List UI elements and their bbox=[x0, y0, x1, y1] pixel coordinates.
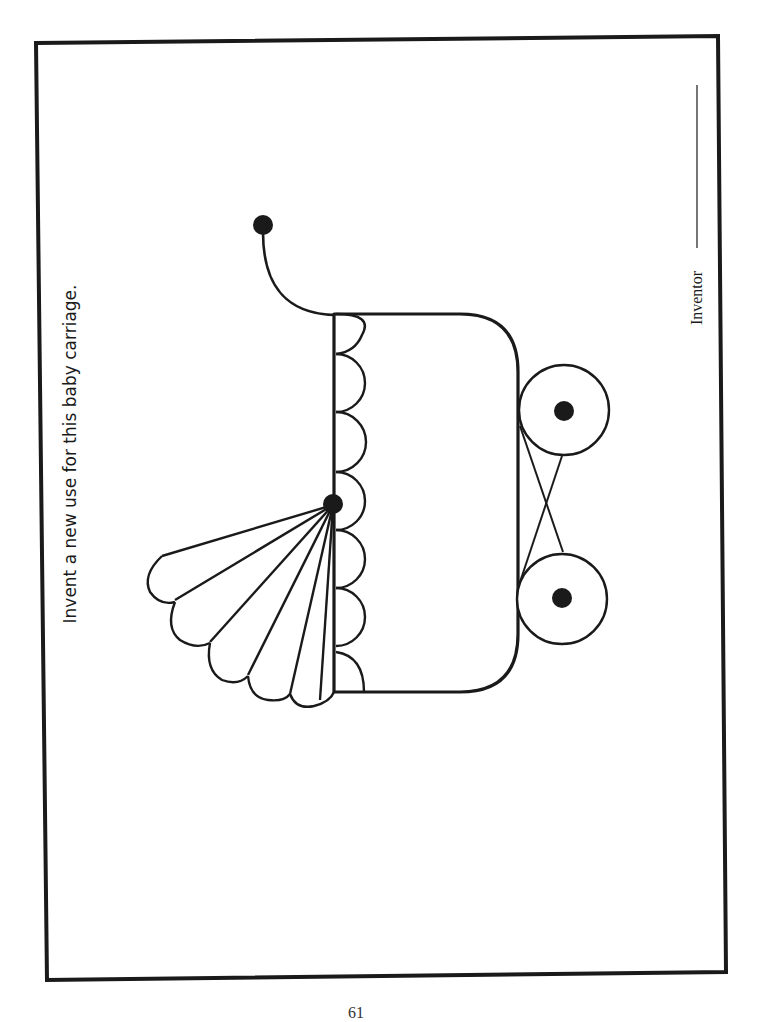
hood-pivot bbox=[323, 494, 343, 514]
worksheet-prompt: Invent a new use for this baby carriage. bbox=[60, 285, 80, 624]
wheel-hub-bottom bbox=[552, 588, 572, 608]
fan-hood bbox=[148, 505, 334, 707]
wheel-hub-top bbox=[554, 401, 574, 421]
handle-icon bbox=[263, 232, 336, 315]
handle-knob bbox=[253, 215, 273, 235]
page-number: 61 bbox=[348, 1004, 364, 1022]
inventor-label: Inventor bbox=[688, 271, 706, 325]
